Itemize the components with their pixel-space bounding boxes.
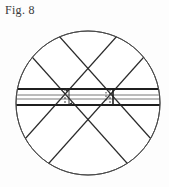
figure-drawing [0, 0, 169, 187]
figure-container: Fig. 8 [0, 0, 169, 187]
outer-circle [16, 31, 160, 175]
